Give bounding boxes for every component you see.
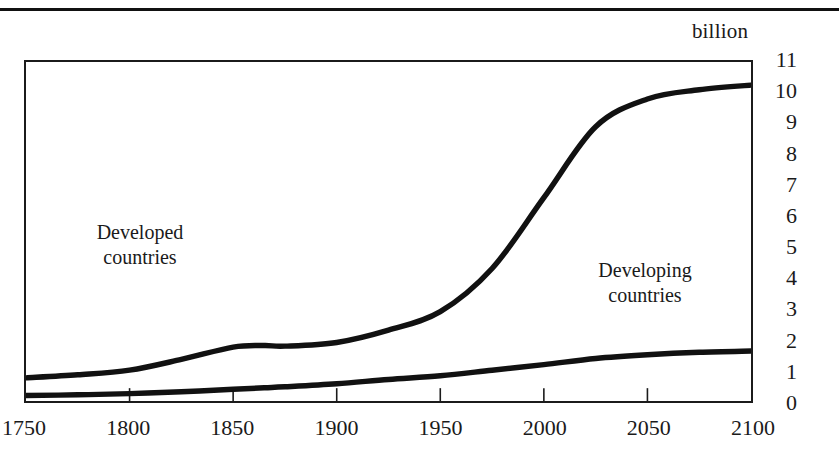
series-label-developing-line2: countries xyxy=(550,283,740,308)
y-axis-tick-labels: 01234567891011 xyxy=(757,0,803,466)
y-axis-tick-label: 10 xyxy=(757,80,797,102)
y-axis-tick-label: 0 xyxy=(757,392,797,414)
y-axis-tick-label: 11 xyxy=(757,49,797,71)
y-axis-tick-label: 5 xyxy=(757,236,797,258)
y-axis-tick-label: 8 xyxy=(757,143,797,165)
x-axis-tick-label: 1900 xyxy=(291,415,381,441)
x-axis-tick-label: 1800 xyxy=(83,415,173,441)
series-label-developed-line1: Developed xyxy=(55,220,225,245)
series-label-developing-countries: Developing countries xyxy=(550,258,740,308)
y-axis-tick-label: 7 xyxy=(757,174,797,196)
x-axis-tick-label: 2000 xyxy=(500,415,590,441)
x-axis-tick-label: 2100 xyxy=(708,415,798,441)
series-label-developed-line2: countries xyxy=(55,245,225,270)
x-axis-tick-label: 2050 xyxy=(604,415,694,441)
x-axis-tick-label: 1850 xyxy=(187,415,277,441)
top-rule-divider xyxy=(0,8,839,11)
y-axis-tick-label: 4 xyxy=(757,267,797,289)
y-axis-tick-label: 2 xyxy=(757,330,797,352)
x-axis-tick-label: 1950 xyxy=(396,415,486,441)
population-projection-figure: billion 01234567891011 17501800185019001… xyxy=(0,0,839,466)
y-axis-tick-label: 9 xyxy=(757,111,797,133)
y-axis-tick-label: 3 xyxy=(757,298,797,320)
series-label-developed-countries: Developed countries xyxy=(55,220,225,270)
x-axis-tick-labels: 17501800185019001950200020502100 xyxy=(0,415,839,455)
series-curve xyxy=(26,351,751,395)
y-axis-tick-label: 6 xyxy=(757,205,797,227)
y-axis-tick-label: 1 xyxy=(757,361,797,383)
x-axis-tick-label: 1750 xyxy=(0,415,69,441)
series-label-developing-line1: Developing xyxy=(550,258,740,283)
